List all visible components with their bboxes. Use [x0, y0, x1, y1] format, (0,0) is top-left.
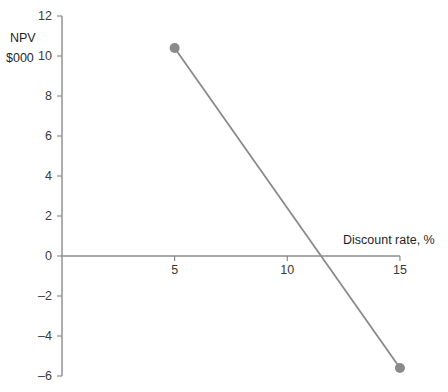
x-axis-ticks: 51015: [171, 256, 407, 277]
npv-profile-chart: –6–4–2024681012 51015 NPV $000 Discount …: [0, 0, 448, 392]
x-tick-label: 15: [393, 263, 407, 277]
y-tick-label: 6: [45, 129, 52, 143]
y-axis-title-line2: $000: [6, 51, 34, 65]
y-tick-label: 0: [45, 249, 52, 263]
axes-group: [62, 16, 400, 376]
x-tick-label: 10: [280, 263, 294, 277]
series-line: [175, 48, 400, 368]
y-tick-label: –6: [38, 369, 52, 383]
data-point-marker: [170, 43, 180, 53]
x-axis-title: Discount rate, %: [343, 233, 435, 247]
y-axis-title-line1: NPV: [10, 31, 36, 45]
series-group: [170, 43, 405, 373]
y-tick-label: 8: [45, 89, 52, 103]
data-point-marker: [395, 363, 405, 373]
chart-canvas: –6–4–2024681012 51015 NPV $000 Discount …: [0, 0, 448, 392]
y-tick-label: –2: [38, 289, 52, 303]
x-tick-label: 5: [171, 263, 178, 277]
y-tick-label: 2: [45, 209, 52, 223]
y-tick-label: 10: [38, 49, 52, 63]
y-tick-label: 4: [45, 169, 52, 183]
y-axis-ticks: –6–4–2024681012: [38, 9, 62, 383]
y-tick-label: 12: [38, 9, 52, 23]
y-tick-label: –4: [38, 329, 52, 343]
